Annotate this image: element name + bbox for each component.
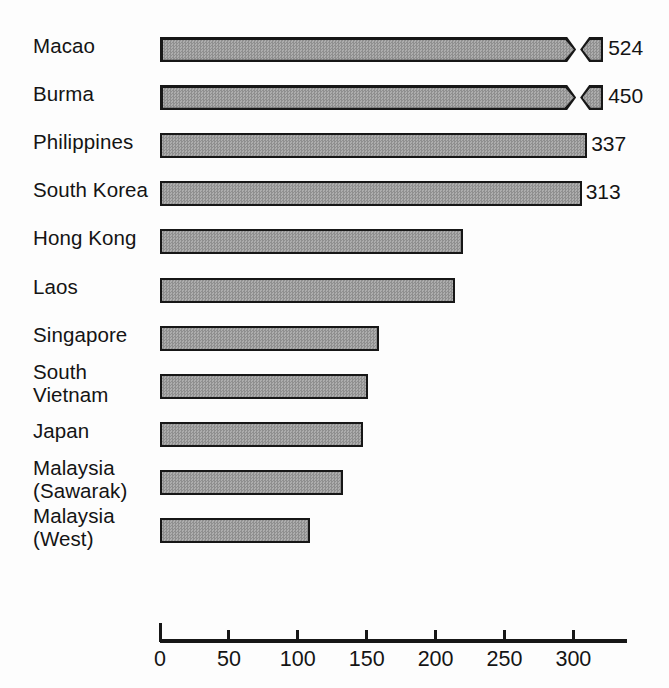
chart-row: Macao524 (0, 25, 669, 73)
bar-fill (160, 326, 379, 351)
category-label: Hong Kong (33, 226, 153, 249)
chart-row: Philippines337 (0, 121, 669, 169)
bar-fill (160, 181, 582, 206)
x-axis-tick (503, 630, 506, 640)
bar-fill (160, 518, 310, 543)
category-label: Malaysia (West) (33, 504, 153, 550)
category-label: South Vietnam (33, 360, 153, 406)
bar-value-label: 313 (586, 179, 621, 204)
bar-value-label: 450 (608, 83, 643, 108)
category-label: Macao (33, 34, 153, 57)
category-label: Burma (33, 82, 153, 105)
x-axis-tick-label: 250 (487, 647, 523, 671)
category-label: Singapore (33, 323, 153, 346)
x-axis-tick-label: 50 (217, 647, 241, 671)
x-axis-tick-label: 100 (280, 647, 316, 671)
x-axis-tick (159, 623, 162, 642)
chart-row: Hong Kong (0, 217, 669, 265)
bar-fill (160, 133, 587, 158)
bar-fill (160, 470, 343, 495)
bar-fill (163, 88, 574, 108)
chart-row: Singapore (0, 314, 669, 362)
bar-value-label: 524 (608, 35, 643, 60)
category-label: Philippines (33, 130, 153, 153)
bar-value-label: 337 (591, 131, 626, 156)
category-label: Laos (33, 275, 153, 298)
x-axis-tick-label: 150 (349, 647, 385, 671)
x-axis-tick (434, 630, 437, 640)
chart-row: Laos (0, 266, 669, 314)
x-axis-tick (365, 630, 368, 640)
chart-row: Japan (0, 410, 669, 458)
chart-row: Malaysia (West) (0, 506, 669, 554)
x-axis-tick-label: 300 (555, 647, 591, 671)
x-axis-tick (227, 630, 230, 640)
category-label: Malaysia (Sawarak) (33, 456, 153, 502)
chart-row: Malaysia (Sawarak) (0, 458, 669, 506)
bar-fill (160, 229, 463, 254)
bar-fill (160, 278, 455, 303)
category-label: Japan (33, 419, 153, 442)
bar-fill (160, 374, 368, 399)
chart-row: South Korea313 (0, 169, 669, 217)
bar-fill (163, 40, 574, 60)
bar-fill (160, 422, 363, 447)
bar-chart: Macao524Burma450Philippines337South Kore… (0, 0, 669, 688)
x-axis-tick-label: 200 (418, 647, 454, 671)
chart-row: Burma450 (0, 73, 669, 121)
x-axis-line (160, 639, 627, 643)
category-label: South Korea (33, 178, 153, 201)
x-axis-tick-label: 0 (154, 647, 166, 671)
x-axis-tick (296, 630, 299, 640)
x-axis-tick (572, 630, 575, 640)
chart-row: South Vietnam (0, 362, 669, 410)
